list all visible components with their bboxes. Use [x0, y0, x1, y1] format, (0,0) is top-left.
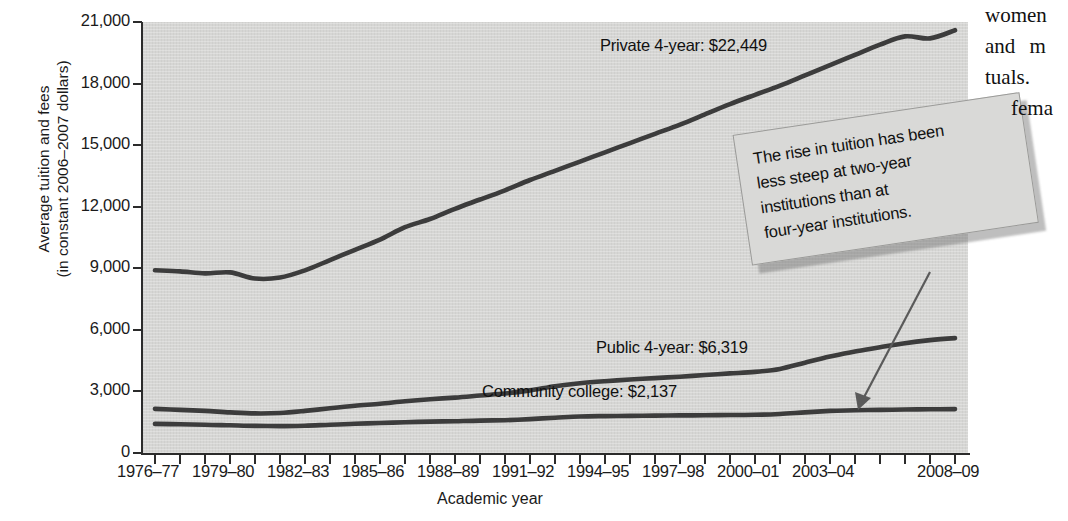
series-lines — [0, 0, 1068, 521]
page-text-line-4: fema — [985, 93, 1068, 124]
page-text-line-2: and m — [985, 31, 1068, 62]
page-body-text: women and m tuals. fema — [985, 0, 1068, 124]
series-path-public-4-year — [155, 338, 955, 413]
page-text-line-3: tuals. — [985, 62, 1068, 93]
callout-arrow-head — [855, 392, 871, 410]
series-label-public-4-year: Public 4-year: $6,319 — [596, 338, 748, 357]
callout-arrow-line — [862, 272, 930, 401]
figure-root: 21,00018,00015,00012,0009,0006,0003,0000… — [0, 0, 1068, 521]
page-text-line-1: women — [985, 0, 1068, 31]
series-label-private-4-year: Private 4-year: $22,449 — [600, 36, 767, 55]
series-label-community-college: Community college: $2,137 — [482, 382, 677, 401]
callout-text: The rise in tuition has been less steep … — [751, 109, 1019, 246]
